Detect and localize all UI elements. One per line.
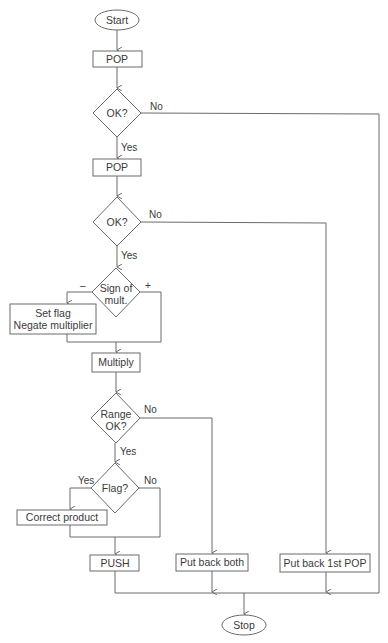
- node-set-flag: Set flag Negate multiplier: [10, 304, 96, 334]
- node-pop1: POP: [93, 51, 142, 67]
- start-label: Start: [106, 14, 128, 26]
- pop1-label: POP: [106, 53, 128, 65]
- edge-ok2-no: [141, 222, 326, 553]
- putback-both-label: Put back both: [180, 556, 244, 568]
- node-pop2: POP: [93, 159, 141, 176]
- flag-yes-label: Yes: [78, 475, 94, 486]
- node-put-back-both: Put back both: [176, 554, 248, 571]
- ok2-label: OK?: [106, 216, 127, 228]
- ok1-yes-label: Yes: [121, 142, 137, 153]
- node-ok1: OK?: [93, 89, 141, 137]
- putback-first-label: Put back 1st POP: [284, 557, 367, 569]
- sign-plus-label: +: [145, 280, 151, 291]
- flag-no-label: No: [144, 475, 157, 486]
- multiply-label: Multiply: [98, 356, 134, 368]
- ok1-label: OK?: [106, 107, 127, 119]
- edge-sign-plus: [140, 292, 161, 342]
- edge-sign-minus: [67, 292, 92, 303]
- edge-push-collector: [115, 571, 379, 593]
- correct-label: Correct product: [26, 511, 98, 523]
- node-range-ok: Range OK?: [91, 393, 140, 443]
- sign-label-line2: mult.: [105, 294, 128, 306]
- ok2-yes-label: Yes: [121, 250, 137, 261]
- edge-flag-yes: [70, 488, 91, 509]
- ok1-no-label: No: [150, 101, 163, 112]
- node-sign-of-mult: Sign of mult.: [92, 268, 140, 317]
- node-ok2: OK?: [93, 197, 141, 246]
- range-no-label: No: [144, 404, 157, 415]
- edge-flag-no: [139, 488, 160, 537]
- sign-label-line1: Sign of: [100, 282, 133, 294]
- node-correct-product: Correct product: [17, 510, 107, 525]
- setflag-label-line1: Set flag: [35, 307, 71, 319]
- merge-correct: [70, 525, 160, 537]
- range-yes-label: Yes: [120, 446, 136, 457]
- push-label: PUSH: [100, 557, 129, 569]
- node-flag: Flag?: [91, 463, 139, 513]
- setflag-label-line2: Negate multiplier: [14, 319, 93, 331]
- edge-ok1-no: [141, 113, 379, 593]
- flowchart: Start POP OK? POP OK? Sign of mult. Set …: [0, 0, 388, 643]
- node-start: Start: [95, 10, 139, 30]
- range-label-line1: Range: [101, 408, 132, 420]
- node-multiply: Multiply: [92, 353, 140, 372]
- node-push: PUSH: [90, 555, 139, 571]
- sign-minus-label: –: [80, 280, 86, 291]
- stop-label: Stop: [233, 619, 255, 631]
- flag-label: Flag?: [102, 482, 128, 494]
- pop2-label: POP: [106, 161, 128, 173]
- merge-setflag: [67, 334, 161, 342]
- range-label-line2: OK?: [105, 420, 126, 432]
- node-stop: Stop: [222, 615, 266, 635]
- ok2-no-label: No: [149, 209, 162, 220]
- node-put-back-1st-pop: Put back 1st POP: [280, 554, 370, 572]
